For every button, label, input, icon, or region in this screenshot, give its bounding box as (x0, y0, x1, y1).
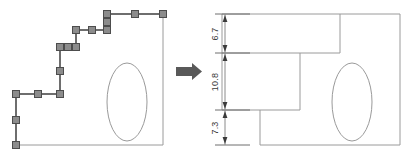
handle-mid-mid-vertical[interactable] (57, 68, 64, 75)
handle-vertex-left-step[interactable] (13, 91, 20, 98)
handle-vertex-upper-step-high[interactable] (73, 27, 80, 34)
handle-vertex-lower-step[interactable] (57, 91, 64, 98)
handle-vertex-upper-step-low[interactable] (73, 44, 80, 51)
handle-mid-top-horizontal[interactable] (132, 11, 139, 18)
handle-vertex-top-step[interactable] (104, 27, 111, 34)
handle-vertex-top-inner[interactable] (104, 11, 111, 18)
handle-vertex-top-right[interactable] (160, 11, 167, 18)
illustration-canvas: 6.7 10.8 7.3 (0, 0, 409, 162)
handle-mid-lower-horizontal[interactable] (35, 91, 42, 98)
handle-mid-left-vertical[interactable] (13, 117, 20, 124)
handle-mid-top-vertical[interactable] (104, 19, 111, 26)
dimension-label-7-3: 7.3 (210, 121, 220, 134)
dimension-label-6-7: 6.7 (210, 27, 220, 40)
handle-mid-mid-horizontal[interactable] (65, 44, 72, 51)
handle-mid-upper-horizontal[interactable] (89, 27, 96, 34)
dimension-label-10-8: 10.8 (210, 73, 220, 91)
handle-vertex-bottom-left[interactable] (13, 142, 20, 149)
drawing-surface: 6.7 10.8 7.3 (0, 0, 409, 162)
handle-vertex-mid-step[interactable] (57, 44, 64, 51)
canvas-background (0, 0, 409, 162)
